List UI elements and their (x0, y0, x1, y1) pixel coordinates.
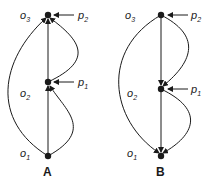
label-b-o1: o1 (127, 147, 137, 161)
edge-o1-p2-curve (8, 18, 48, 156)
diagram-a (8, 15, 78, 156)
label-b-p1: p1 (190, 83, 201, 97)
node-a-top (45, 12, 51, 18)
label-a-o2: o2 (20, 87, 30, 101)
label-a-p1: p1 (77, 76, 88, 90)
node-a-bottom (45, 153, 51, 159)
node-b-top (158, 12, 164, 18)
caption-b: B (156, 165, 165, 179)
edge-p1-p2-curve (48, 18, 78, 82)
edge-p2-p1-curve (161, 15, 189, 86)
label-a-o1: o1 (20, 147, 30, 161)
label-b-p2: p2 (190, 9, 201, 23)
label-b-o3: o3 (125, 9, 135, 23)
label-a-p2: p2 (77, 9, 88, 23)
diagram-canvas: o3 p2 p1 o2 o1 A o3 p2 p1 o2 o1 B (0, 0, 208, 186)
node-a-mid (45, 79, 51, 85)
diagram-b (119, 15, 191, 153)
edge-p1-o1-curve (161, 89, 191, 153)
edge-p2-o1-curve (119, 15, 161, 153)
label-a-o3: o3 (20, 9, 30, 23)
edge-o1-p1-curve (48, 86, 73, 156)
caption-a: A (43, 165, 52, 179)
node-b-bottom (158, 153, 164, 159)
node-b-mid (158, 86, 164, 92)
label-b-o2: o2 (127, 87, 137, 101)
